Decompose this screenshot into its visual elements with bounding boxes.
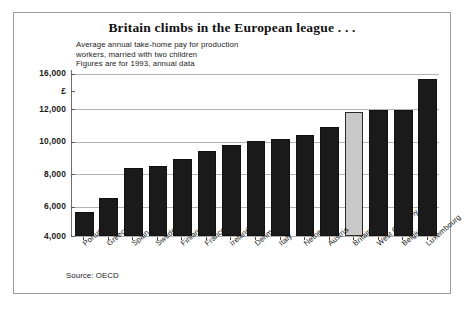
- subtitle-line-3: Figures are for 1993, annual data: [76, 59, 238, 69]
- bar-denmark: [247, 141, 266, 236]
- bar-netherlands: [296, 135, 315, 236]
- plot-area: [71, 70, 439, 237]
- y-axis-tick-mark: [71, 74, 75, 75]
- y-axis-tick-mark: [71, 91, 75, 92]
- y-axis-tick-mark: [71, 236, 75, 237]
- y-axis-tick-label: £: [14, 86, 66, 96]
- bar-luxembourg: [418, 79, 437, 236]
- y-axis-tick-mark: [71, 142, 75, 143]
- y-axis-tick-mark: [71, 174, 75, 175]
- chart-figure: Britain climbs in the European league . …: [0, 0, 465, 309]
- y-axis-tick-label: 10,000: [14, 136, 66, 146]
- chart-subtitle: Average annual take-home pay for product…: [76, 40, 238, 69]
- y-axis-tick-label: 4,000: [14, 231, 66, 241]
- bar-west-germany: [369, 110, 388, 236]
- y-axis-tick-label: 6,000: [14, 201, 66, 211]
- y-axis-tick-label: 8,000: [14, 169, 66, 179]
- subtitle-line-2: workers, married with two children: [76, 50, 238, 60]
- bar-sweden: [149, 166, 168, 236]
- y-axis-tick-mark: [71, 207, 75, 208]
- y-axis-tick-label: 16,000: [14, 68, 66, 78]
- bar-ireland: [222, 145, 241, 236]
- y-axis-line: [71, 70, 72, 237]
- bar-britain: [345, 112, 364, 236]
- bar-france: [198, 151, 217, 236]
- bar-spain: [124, 168, 143, 236]
- subtitle-line-1: Average annual take-home pay for product…: [76, 40, 238, 50]
- y-axis-tick-label: 12,000: [14, 104, 66, 114]
- page-title: Britain climbs in the European league . …: [13, 20, 451, 36]
- source-note: Source: OECD: [66, 271, 119, 280]
- y-axis-tick-mark: [71, 109, 75, 110]
- gridline: [71, 74, 439, 75]
